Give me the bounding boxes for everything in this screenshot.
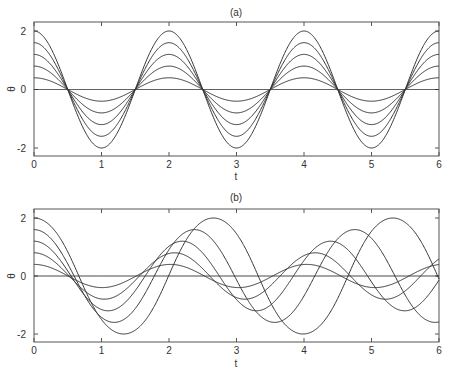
panel-b-ylabel: θ	[6, 273, 17, 279]
x-tick-label: 2	[166, 345, 172, 356]
panel-a-curves	[34, 31, 439, 148]
y-tick-label: 0	[20, 84, 26, 95]
x-tick-label: 5	[369, 345, 375, 356]
panel-b-xlabel: t	[235, 358, 238, 369]
x-tick-label: 3	[234, 345, 240, 356]
panel-a-ylabel: θ	[6, 86, 17, 92]
panel-a-title: (a)	[230, 7, 242, 18]
x-tick-label: 3	[234, 159, 240, 170]
x-tick-label: 0	[31, 159, 37, 170]
x-tick-label: 6	[436, 345, 442, 356]
x-tick-label: 6	[436, 159, 442, 170]
figure: (a) 0123456-202 t θ (b) 0123456-202 t θ	[0, 0, 452, 373]
x-tick-label: 4	[301, 159, 307, 170]
panel-a-chart: (a) 0123456-202 t θ	[6, 7, 442, 182]
x-tick-label: 4	[301, 345, 307, 356]
y-tick-label: 2	[20, 213, 26, 224]
y-tick-label: 0	[20, 271, 26, 282]
y-tick-label: 2	[20, 26, 26, 37]
panel-b-chart: (b) 0123456-202 t θ	[6, 192, 442, 369]
x-tick-label: 0	[31, 345, 37, 356]
panel-b-curves	[34, 218, 439, 334]
y-tick-label: -2	[17, 329, 26, 340]
x-tick-label: 5	[369, 159, 375, 170]
panel-a-xlabel: t	[235, 171, 238, 182]
y-tick-label: -2	[17, 143, 26, 154]
panel-b-title: (b)	[230, 192, 242, 203]
x-tick-label: 2	[166, 159, 172, 170]
x-tick-label: 1	[99, 159, 105, 170]
x-tick-label: 1	[99, 345, 105, 356]
